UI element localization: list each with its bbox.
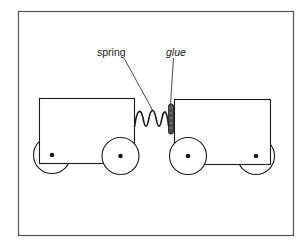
glue (169, 104, 174, 134)
spring-label: spring (97, 46, 126, 58)
diagram-canvas: spring glue (0, 0, 302, 248)
right-cart (170, 100, 275, 175)
right-cart-rear-axle (254, 154, 259, 159)
right-cart-front-axle (186, 154, 191, 159)
left-cart-rear-axle (50, 153, 55, 158)
left-cart-front-axle (118, 154, 123, 159)
left-cart (34, 99, 140, 175)
glue-label: glue (166, 46, 186, 58)
